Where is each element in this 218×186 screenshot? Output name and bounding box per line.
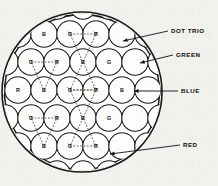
callout-label-red: RED <box>183 141 198 148</box>
phosphor-dot <box>135 77 161 103</box>
phosphor-dot <box>135 21 161 47</box>
phosphor-dot <box>109 21 135 47</box>
phosphor-dot-label: B <box>120 87 124 93</box>
phosphor-dot-label: B <box>42 31 46 37</box>
phosphor-dot-label: R <box>16 87 20 93</box>
phosphor-dot <box>5 133 31 159</box>
callout-label-green: GREEN <box>176 51 201 58</box>
callout-label-blue: BLUE <box>181 87 200 94</box>
phosphor-dot-label: G <box>107 59 111 65</box>
dot-trio-diagram: BGRGRBGRBGRBGRBGBGR DOT TRIOGREENBLUERED <box>0 0 218 186</box>
phosphor-dot <box>122 105 148 131</box>
callout-label-dot-trio: DOT TRIO <box>171 27 205 34</box>
phosphor-dots-group: BGRGRBGRBGRBGRBGBGR <box>0 0 187 186</box>
phosphor-dot-label: G <box>107 115 111 121</box>
phosphor-dot-figure: BGRGRBGRBGRBGRBGBGR DOT TRIOGREENBLUERED <box>0 0 218 186</box>
phosphor-dot <box>96 161 122 186</box>
phosphor-dot <box>70 161 96 186</box>
